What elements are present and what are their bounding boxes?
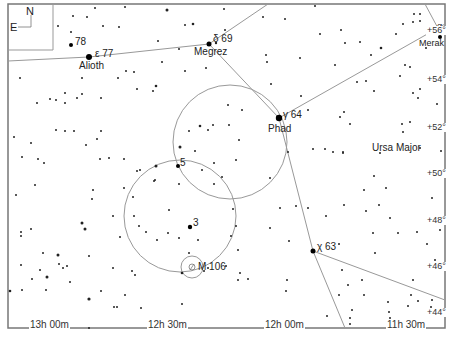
star-78-label: 78 [75,37,86,47]
compass-east: E [10,22,17,33]
dec-label-48: +48° [426,216,447,225]
constellation-label: Ursa Major [372,143,421,153]
dec-label-50: +50° [426,169,447,178]
ra-label-13h00m: 13h 00m [29,320,70,330]
ra-label-11h30m: 11h 30m [386,320,426,330]
star-megrez-designation: δ 69 [213,34,232,44]
dec-label-56: +56° [426,26,447,35]
star-merak-name: Merak [419,39,444,48]
star-alioth-designation: ε 77 [95,49,113,59]
star-megrez-name: Megrez [194,47,227,57]
star-chart: N E 78 ε 77 Alioth δ 69 Megrez γ 64 Phad… [0,0,454,337]
ra-label-12h30m: 12h 30m [147,320,188,330]
compass-north: N [26,6,34,17]
dec-label-44: +44° [426,308,447,317]
dec-label-54: +54° [426,75,447,84]
star-3-label: 3 [193,218,199,228]
star-phad-name: Phad [268,124,291,134]
m106-label: M 106 [198,262,226,272]
dec-label-52: +52° [426,123,447,132]
dec-label-46: +46° [426,262,447,271]
star-phad-designation: γ 64 [283,110,302,120]
galaxy-icon [189,264,195,270]
star-5-label: 5 [180,158,186,168]
field-circles [124,85,287,278]
ra-label-12h00m: 12h 00m [264,320,305,330]
star-alioth-name: Alioth [79,61,104,71]
star-chi-designation: χ 63 [317,242,336,252]
